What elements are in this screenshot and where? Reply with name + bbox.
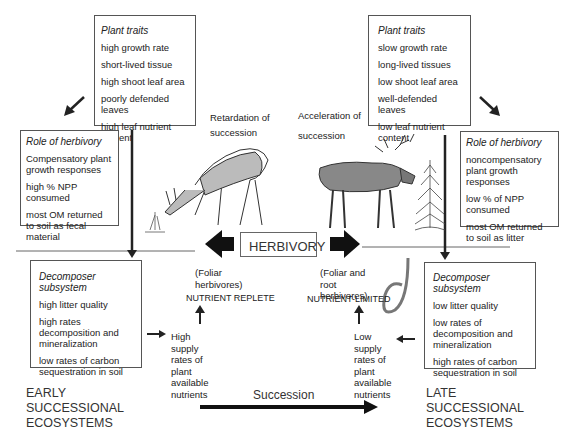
role-item: low % of NPP consumed <box>466 193 553 215</box>
nutrient-replete-label: NUTRIENT REPLETE <box>186 293 275 305</box>
trait-item: high shoot leaf area <box>101 76 189 87</box>
decomposer-item: high litter quality <box>39 299 133 310</box>
late-successional-label: LATE SUCCESSIONAL ECOSYSTEMS <box>426 386 556 429</box>
box-title: Decomposer subsystem <box>433 272 527 294</box>
role-item: Compensatory plant growth responses <box>26 153 113 175</box>
role-item: most OM returned to soil as litter <box>466 221 553 243</box>
right-plant-traits-box: Plant traits slow growth rate long-lived… <box>368 15 471 126</box>
trait-item: low shoot leaf area <box>378 76 461 87</box>
trait-item: poorly defended leaves <box>101 93 189 115</box>
grass-tuft <box>145 212 165 232</box>
decomposer-item: low rates of decomposition and mineraliz… <box>433 317 527 350</box>
trait-item: well-defended leaves <box>378 93 461 115</box>
nutrient-limited-label: NUTRIENT-LIMITED <box>307 294 391 306</box>
foliar-herbivores-label: (Foliar herbivores) <box>195 267 240 290</box>
left-decomposer-box: Decomposer subsystem high litter quality… <box>30 260 142 368</box>
decomposer-item: high rates decomposition and mineralizat… <box>39 316 133 349</box>
high-supply-label: High supply rates of plant available nut… <box>171 331 215 400</box>
box-title: Plant traits <box>101 25 189 36</box>
retardation-label: Retardation of succession <box>210 110 270 140</box>
box-title: Role of herbivory <box>466 137 553 148</box>
decomposer-item: low litter quality <box>433 300 527 311</box>
decomposer-item: high rates of carbon sequestration in so… <box>433 356 527 378</box>
role-item: noncompensatory plant growth responses <box>466 154 553 187</box>
box-title: Plant traits <box>378 25 461 36</box>
role-item: high % NPP consumed <box>26 181 113 203</box>
box-title: Role of herbivory <box>26 136 113 147</box>
acceleration-label: Acceleration of <box>298 110 361 122</box>
acceleration-label-2: succession <box>298 130 345 142</box>
early-successional-label: EARLY SUCCESSIONAL ECOSYSTEMS <box>26 386 156 429</box>
herbivory-box: HERBIVORY <box>240 232 317 257</box>
trait-item: high growth rate <box>101 42 189 53</box>
trait-item: low leaf nutrient content <box>378 121 461 143</box>
deer-illustration <box>165 149 268 225</box>
herbivory-label: HERBIVORY <box>249 238 325 255</box>
low-supply-label: Low supply rates of plant available nutr… <box>354 331 398 400</box>
left-role-of-herbivory-box: Role of herbivory Compensatory plant gro… <box>20 130 119 226</box>
succession-label: Succession <box>253 387 314 404</box>
role-item: most OM returned to soil as fecal materi… <box>26 209 113 242</box>
spruce-tree-illustration <box>415 160 445 230</box>
trait-item: slow growth rate <box>378 42 461 53</box>
right-role-of-herbivory-box: Role of herbivory noncompensatory plant … <box>460 131 559 227</box>
box-title: Decomposer subsystem <box>39 271 133 293</box>
right-decomposer-box: Decomposer subsystem low litter quality … <box>424 262 536 369</box>
trait-item: short-lived tissue <box>101 59 189 70</box>
decomposer-item: low rates of carbon sequestration in soi… <box>39 355 133 377</box>
moose-illustration <box>319 134 415 228</box>
trait-item: long-lived tissues <box>378 59 461 70</box>
left-plant-traits-box: Plant traits high growth rate short-live… <box>94 15 196 126</box>
